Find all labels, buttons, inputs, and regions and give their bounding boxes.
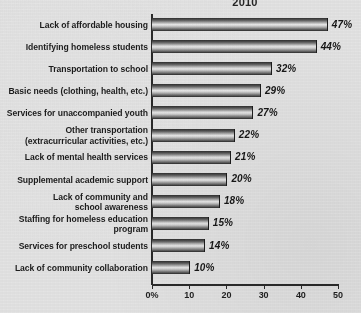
- x-tick-label: 30: [259, 290, 269, 300]
- bar-value-label: 27%: [257, 107, 277, 118]
- bar-category-label: Lack of community andschool awareness: [0, 192, 148, 212]
- bar-fill: [152, 18, 328, 31]
- x-tick-label: 10: [184, 290, 194, 300]
- bar: [152, 40, 317, 53]
- bar-category-label: Transportation to school: [0, 64, 148, 74]
- bar: [152, 173, 227, 186]
- bar: [152, 62, 272, 75]
- bar-value-label: 14%: [209, 240, 229, 251]
- x-tick: [301, 284, 302, 289]
- x-axis-line: [152, 284, 339, 286]
- bar: [152, 18, 328, 31]
- bar: [152, 239, 205, 252]
- chart-title: 2010: [152, 0, 338, 8]
- bar-fill: [152, 195, 220, 208]
- bar-fill: [152, 173, 227, 186]
- bar: [152, 151, 231, 164]
- bar-category-label: Other transportation(extracurricular act…: [0, 125, 148, 145]
- x-tick-label: 50: [333, 290, 343, 300]
- bar-category-label: Staffing for homeless educationprogram: [0, 214, 148, 234]
- bar-fill: [152, 84, 261, 97]
- bar-value-label: 44%: [321, 41, 341, 52]
- bar-category-label: Supplemental academic support: [0, 175, 148, 185]
- bar-value-label: 29%: [265, 85, 285, 96]
- x-tick: [226, 284, 227, 289]
- x-tick: [264, 284, 265, 289]
- bar-fill: [152, 62, 272, 75]
- bar-category-label: Lack of community collaboration: [0, 263, 148, 273]
- bar-fill: [152, 129, 235, 142]
- bar-value-label: 18%: [224, 195, 244, 206]
- bar-category-label: Lack of affordable housing: [0, 20, 148, 30]
- x-tick: [189, 284, 190, 289]
- bar: [152, 261, 190, 274]
- bar-fill: [152, 239, 205, 252]
- x-tick: [338, 284, 339, 289]
- bar-category-label: Basic needs (clothing, health, etc.): [0, 86, 148, 96]
- bar-fill: [152, 261, 190, 274]
- bar-value-label: 20%: [231, 173, 251, 184]
- bar-fill: [152, 40, 317, 53]
- bar-category-label: Lack of mental health services: [0, 152, 148, 162]
- bar-category-label: Services for preschool students: [0, 241, 148, 251]
- bar: [152, 84, 261, 97]
- bar-value-label: 15%: [213, 217, 233, 228]
- plot-area: Lack of affordable housing47%Identifying…: [0, 13, 361, 285]
- x-tick: [152, 284, 153, 289]
- bar: [152, 129, 235, 142]
- bar-value-label: 21%: [235, 151, 255, 162]
- bar-category-label: Services for unaccompanied youth: [0, 108, 148, 118]
- x-tick-label: 0%: [146, 290, 159, 300]
- x-tick-label: 40: [296, 290, 306, 300]
- bar: [152, 217, 209, 230]
- bar: [152, 195, 220, 208]
- bar-category-label: Identifying homeless students: [0, 42, 148, 52]
- bar-fill: [152, 217, 209, 230]
- bar: [152, 106, 253, 119]
- bar-value-label: 22%: [239, 129, 259, 140]
- bar-value-label: 10%: [194, 262, 214, 273]
- bar-chart: 2010 Lack of affordable housing47%Identi…: [0, 0, 361, 313]
- bar-fill: [152, 106, 253, 119]
- bar-value-label: 47%: [332, 19, 352, 30]
- bar-fill: [152, 151, 231, 164]
- bar-value-label: 32%: [276, 63, 296, 74]
- x-tick-label: 20: [221, 290, 231, 300]
